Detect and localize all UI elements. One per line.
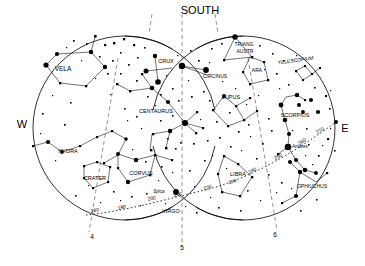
star-medium [326,172,328,174]
star-dim [330,128,331,129]
meridian-tick-right [215,14,218,34]
star-dim [185,206,186,207]
star-medium [111,130,113,132]
star-medium [83,165,85,167]
star-faint [64,124,66,126]
star-dim [40,133,41,134]
ecliptic-label-180: 180 [90,206,99,213]
star-dim [260,200,261,201]
star-bright [134,158,138,162]
star-bright [179,63,185,69]
cardinal-label-east: E [341,122,348,134]
star-bright [298,170,302,174]
star-faint [99,56,101,58]
star-medium [94,35,97,38]
star-faint [128,64,130,66]
star-faint [136,80,138,82]
star-medium [59,82,61,84]
star-faint [70,102,72,104]
star-faint [144,47,146,49]
star-faint [247,190,249,192]
star-medium [243,119,245,121]
star-faint [73,40,75,42]
star-faint [271,130,273,132]
star-medium [141,73,143,75]
constellation-label-circinus: CIRCINUS [203,73,228,79]
star-dim [165,203,166,204]
star-medium [267,79,269,81]
cardinal-label-west: W [17,118,28,130]
star-faint [276,73,278,75]
star-medium [281,202,283,204]
star-medium [152,133,154,135]
star-dim [226,168,227,169]
horizon-interior-mask [127,43,241,213]
star-medium [85,85,87,87]
star-dim [81,60,82,61]
star-dim [292,130,293,131]
star-medium [239,195,241,197]
star-faint [259,45,261,47]
star-faint [86,43,88,45]
star-medium [133,44,135,46]
star-medium [304,65,306,67]
star-faint [318,155,320,157]
ecliptic-label-240: 240 [247,166,257,175]
star-bright [153,54,157,58]
star-medium [263,61,265,63]
star-bright [124,137,128,141]
ecliptic-label-230: 230 [227,177,237,185]
star-medium [96,136,98,138]
star-dim [291,188,292,189]
star-faint [191,96,193,98]
star-faint [167,138,169,140]
sky-map-svg: SOUTH W E 4 5 6 180 190 200 210 220 230 … [0,0,365,266]
star-faint [281,182,283,184]
star-dim [241,150,242,151]
star-medium [165,147,167,149]
star-faint [161,166,163,168]
constellation-label-crux: CRUX [158,58,174,64]
star-medium [104,44,106,46]
star-dim [172,172,173,173]
star-faint [203,91,205,93]
star-medium [319,67,321,69]
cardinal-label-south: SOUTH [181,4,220,16]
star-faint [120,73,122,75]
star-faint [256,158,258,160]
star-faint [131,196,133,198]
star-medium [195,132,197,134]
star-medium [221,191,223,193]
star-faint [207,140,209,142]
star-medium [256,110,258,112]
star-medium [237,163,239,165]
star-bright [55,52,59,56]
constellation-label-crater: CRATER [84,175,106,181]
star-label-spica: Spica [153,189,165,194]
star-medium [103,162,105,164]
star-dim [194,186,195,187]
star-dim [200,119,201,120]
star-dim [222,81,223,82]
star-medium [249,97,251,99]
star-faint [172,88,174,90]
star-medium [223,59,225,61]
star-faint [107,73,109,75]
star-faint [316,199,318,201]
star-dim [88,185,89,186]
star-dim [330,90,331,91]
star-medium [123,38,125,40]
star-faint [180,142,182,144]
star-dim [155,105,156,106]
star-dim [55,160,56,161]
star-faint [272,53,274,55]
star-faint [221,43,223,45]
star-bright [294,194,298,198]
star-faint [262,143,264,145]
star-dim [141,128,142,129]
star-medium [116,83,118,85]
star-medium [251,176,253,178]
star-faint [218,207,220,209]
star-bright [309,98,313,102]
star-faint [268,174,270,176]
